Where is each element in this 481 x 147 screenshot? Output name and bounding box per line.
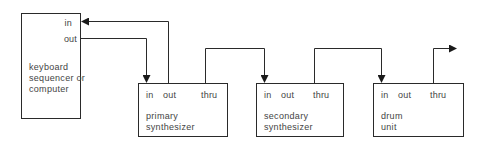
drum-thru-port-label: thru xyxy=(430,90,446,100)
drum-unit-box: in out thru drum unit xyxy=(373,83,464,137)
primary-out-port-label: out xyxy=(163,90,176,100)
arrow-primary-thru-to-secondary-in xyxy=(206,49,265,84)
secondary-synthesizer-box: in out thru secondary synthesizer xyxy=(256,83,344,137)
arrow-drum-thru-out xyxy=(434,49,457,84)
controller-name-line-3: computer xyxy=(29,84,69,95)
drum-in-port-label: in xyxy=(381,90,388,100)
controller-name-line-1: keyboard xyxy=(29,62,68,73)
drum-out-port-label: out xyxy=(398,90,411,100)
primary-name-line-1: primary xyxy=(146,111,178,122)
primary-name-line-2: synthesizer xyxy=(146,122,195,133)
controller-in-port-label: in xyxy=(65,18,72,28)
secondary-name-line-1: secondary xyxy=(264,111,308,122)
secondary-thru-port-label: thru xyxy=(313,90,329,100)
controller-name-line-2: sequencer or xyxy=(29,73,85,84)
primary-thru-port-label: thru xyxy=(201,90,217,100)
primary-in-port-label: in xyxy=(146,90,153,100)
secondary-in-port-label: in xyxy=(264,90,271,100)
controller-box: in out keyboard sequencer or computer xyxy=(21,13,81,119)
arrow-primary-out-to-controller-in xyxy=(82,22,169,84)
drum-name-line-1: drum xyxy=(381,111,403,122)
controller-out-port-label: out xyxy=(64,34,77,44)
drum-name-line-2: unit xyxy=(381,122,397,133)
primary-synthesizer-box: in out thru primary synthesizer xyxy=(138,83,228,137)
arrow-secondary-thru-to-drum-in xyxy=(315,49,382,84)
midi-chain-diagram: in out keyboard sequencer or computer in… xyxy=(0,0,481,147)
arrow-controller-out-to-primary-in xyxy=(80,39,147,83)
secondary-name-line-2: synthesizer xyxy=(264,122,313,133)
secondary-out-port-label: out xyxy=(281,90,294,100)
